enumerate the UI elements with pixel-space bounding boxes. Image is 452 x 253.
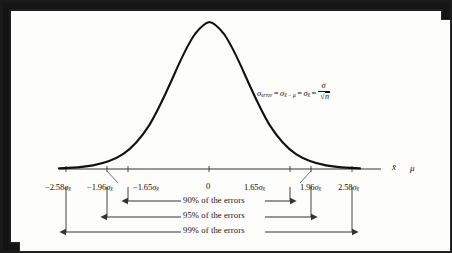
normal-curve-svg: [11, 11, 441, 242]
formula-sigma-error: σerror: [257, 89, 272, 98]
axis-end-label-mu: μ: [410, 164, 415, 173]
tick-label-neg-1-65: −1.65σx̄: [133, 183, 159, 193]
tick-label-zero: 0: [206, 182, 210, 191]
tick-label-pos-1-65: 1.65σx̄: [244, 183, 265, 193]
band-90-label: 90% of the errors: [183, 196, 245, 205]
band-95-label: 95% of the errors: [183, 211, 245, 220]
plot-area: −2.58σx̄ −1.96σx̄ −1.65σx̄ 0 1.65σx̄ 1.9…: [11, 11, 441, 242]
tick-label-pos-1-96: 1.96σx̄: [300, 183, 321, 193]
formula-numerator: σ: [318, 82, 330, 91]
standard-error-formula: σerror=σx̄ − μ=σx̄= σ n: [257, 82, 330, 102]
tick-label-neg-1-96: −1.96σx̄: [87, 183, 113, 193]
tick-label-neg-2-58: −2.58σx̄: [45, 183, 71, 193]
formula-sigma-xbar: σx̄: [303, 89, 310, 98]
formula-equals-3: =: [310, 89, 318, 98]
formula-equals-1: =: [272, 89, 280, 98]
axis-end-label-xbar: x̄: [392, 163, 396, 172]
tick-label-pos-2-58: 2.58σx̄: [338, 183, 359, 193]
sqrt-icon: n: [318, 92, 330, 102]
band-99-label: 99% of the errors: [183, 226, 245, 235]
formula-denominator: n: [318, 91, 330, 102]
formula-fraction: σ n: [318, 82, 330, 102]
formula-sigma-xbar-minus-mu: σx̄ − μ: [280, 89, 296, 98]
figure-container: −2.58σx̄ −1.96σx̄ −1.65σx̄ 0 1.65σx̄ 1.9…: [0, 0, 452, 253]
